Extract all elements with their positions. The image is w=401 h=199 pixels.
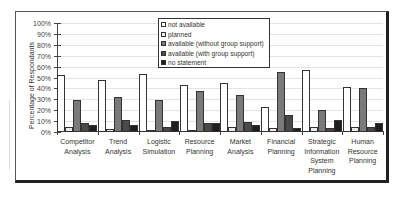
legend-swatch-icon (161, 32, 166, 37)
x-tick-label: StrategicInformationSystemPlanning (299, 137, 345, 175)
bar (139, 74, 147, 132)
y-tick-label: 40% (37, 85, 51, 92)
bar (212, 123, 220, 132)
bar (252, 125, 260, 132)
legend-label: planned (168, 31, 191, 38)
y-axis-label: Percentage of Respondants (28, 31, 35, 141)
bar (318, 110, 326, 132)
bar (261, 107, 269, 132)
bar (204, 123, 212, 132)
legend-item: no statement (161, 58, 267, 68)
bar (171, 121, 179, 132)
y-tick-label: 90% (37, 30, 51, 37)
y-tick-label: 70% (37, 52, 51, 59)
bar (155, 100, 163, 132)
bar (147, 130, 155, 132)
y-tick (54, 23, 61, 24)
bar (367, 127, 375, 132)
legend-item: available (with group support) (161, 49, 267, 59)
bar (89, 125, 97, 132)
bar (269, 128, 277, 132)
bar (196, 91, 204, 132)
bar (65, 127, 73, 132)
bar (81, 123, 89, 132)
y-tick (54, 34, 61, 35)
gridline (57, 78, 383, 79)
bar (359, 88, 367, 132)
bar (188, 130, 196, 132)
bar (244, 122, 252, 132)
legend-swatch-icon (161, 51, 166, 56)
bar (122, 120, 130, 132)
x-tick-label: HumanResourcePlanning (340, 137, 386, 166)
legend-swatch-icon (161, 60, 166, 65)
legend-swatch-icon (161, 22, 166, 27)
legend-swatch-icon (161, 41, 166, 46)
bar (293, 128, 301, 132)
y-tick (54, 45, 61, 46)
legend-label: available (without group support) (168, 40, 264, 47)
y-tick-label: 10% (37, 118, 51, 125)
bar (343, 87, 351, 132)
bar (98, 80, 106, 132)
y-tick-label: 60% (37, 63, 51, 70)
legend-item: not available (161, 20, 267, 30)
bar (285, 115, 293, 132)
bar (326, 128, 334, 132)
y-tick-label: 80% (37, 41, 51, 48)
bar (106, 129, 114, 132)
bar (228, 127, 236, 132)
y-tick-label: 0% (41, 129, 51, 136)
bar (57, 75, 65, 132)
legend-label: no statement (168, 59, 206, 66)
bar (334, 120, 342, 132)
x-tick-label: MarketAnalysis (217, 137, 263, 156)
legend-item: available (without group support) (161, 39, 267, 49)
bar (375, 123, 383, 132)
legend-item: planned (161, 30, 267, 40)
bar (180, 85, 188, 132)
bar (73, 100, 81, 132)
y-tick-label: 20% (37, 107, 51, 114)
bar (351, 127, 359, 132)
bar (163, 127, 171, 132)
bar (236, 95, 244, 132)
page-edge-line (9, 100, 10, 170)
bar (302, 70, 310, 132)
x-tick-label: ResourcePlanning (177, 137, 223, 156)
x-tick-label: LogisticSimulation (136, 137, 182, 156)
legend-label: available (with group support) (168, 50, 255, 57)
y-tick (54, 67, 61, 68)
x-tick-label: CompetitorAnalysis (54, 137, 100, 156)
legend-label: not available (168, 21, 205, 28)
bar (310, 127, 318, 132)
bar (277, 72, 285, 132)
bar (114, 97, 122, 132)
x-tick-label: TrendAnalysis (95, 137, 141, 156)
x-tick-label: FinancialPlanning (258, 137, 304, 156)
y-tick-label: 100% (33, 20, 51, 27)
x-tick (383, 131, 384, 135)
bar (220, 83, 228, 132)
y-tick-label: 30% (37, 96, 51, 103)
y-tick (54, 56, 61, 57)
bar (130, 125, 138, 132)
legend: not availableplannedavailable (without g… (158, 18, 270, 68)
y-tick-label: 50% (37, 74, 51, 81)
